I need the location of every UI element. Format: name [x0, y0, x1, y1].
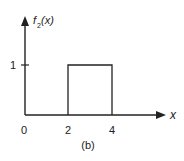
x-tick-label-2: 2: [65, 124, 71, 136]
y-axis-arrow-icon: [21, 16, 29, 26]
series-f2-rectangle: [68, 65, 112, 115]
x-axis-arrow-icon: [156, 111, 166, 119]
y-axis-label-arg: (x): [41, 14, 54, 26]
y-tick-label-1: 1: [10, 59, 16, 71]
figure-caption: (b): [81, 139, 94, 151]
x-tick-label-0: 0: [21, 124, 27, 136]
x-tick-label-4: 4: [109, 124, 115, 136]
chart-figure: f 2 (x) 1 0 2 4 x (b): [0, 0, 184, 161]
x-axis-label: x: [169, 108, 177, 122]
